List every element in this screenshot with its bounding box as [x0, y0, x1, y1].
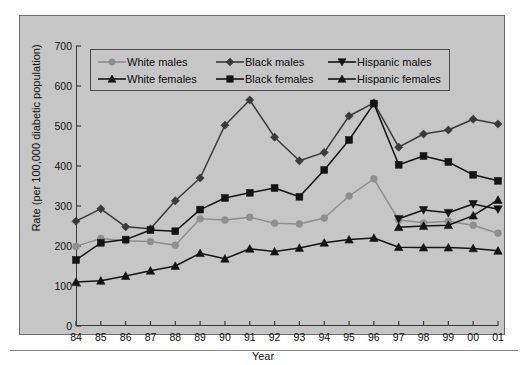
- legend-marker-triangle-down-icon: [327, 55, 357, 69]
- x-tick-label: 86: [113, 331, 139, 343]
- x-tick-label: 91: [237, 331, 263, 343]
- legend-label: Black females: [245, 73, 315, 85]
- chart-legend: White malesBlack malesHispanic males Whi…: [90, 49, 450, 91]
- x-tick-label: 01: [485, 331, 511, 343]
- x-tick-label: 93: [286, 331, 312, 343]
- legend-marker-circle-icon: [97, 55, 127, 69]
- x-tick-label: 89: [187, 331, 213, 343]
- legend-label: Hispanic males: [357, 56, 434, 68]
- legend-entry[interactable]: Black females: [215, 70, 327, 87]
- legend-entry[interactable]: White males: [97, 53, 215, 70]
- series-white-males: [73, 175, 502, 249]
- legend-marker-square-icon: [215, 72, 245, 86]
- legend-marker-triangle-up-icon: [97, 72, 127, 86]
- page-separator-rule: [10, 350, 518, 351]
- figure-panel: 7006005004003002001000 Rate (per 100,000…: [19, 15, 505, 335]
- legend-marker-diamond-icon: [215, 55, 245, 69]
- x-axis-title: Year: [20, 350, 506, 362]
- x-tick-label: 92: [262, 331, 288, 343]
- x-tick-label: 88: [162, 331, 188, 343]
- x-tick-label: 97: [386, 331, 412, 343]
- data-series-layer: [72, 96, 502, 286]
- legend-row: White malesBlack malesHispanic males: [97, 53, 443, 70]
- x-tick-label: 90: [212, 331, 238, 343]
- legend-entry[interactable]: White females: [97, 70, 215, 87]
- x-tick-label: 95: [336, 331, 362, 343]
- legend-entry[interactable]: Hispanic females: [327, 70, 443, 87]
- x-tick-label: 85: [88, 331, 114, 343]
- x-tick-label: 99: [435, 331, 461, 343]
- x-tick-label: 94: [311, 331, 337, 343]
- legend-label: White males: [127, 56, 190, 68]
- legend-label: White females: [127, 73, 199, 85]
- x-tick-label: 84: [63, 331, 89, 343]
- series-black-males: [72, 96, 502, 233]
- series-black-females: [73, 100, 502, 263]
- x-tick-label: 00: [460, 331, 486, 343]
- legend-entry[interactable]: Hispanic males: [327, 53, 434, 70]
- legend-label: Hispanic females: [357, 73, 443, 85]
- legend-label: Black males: [245, 56, 306, 68]
- legend-entry[interactable]: Black males: [215, 53, 327, 70]
- legend-row: White femalesBlack femalesHispanic femal…: [97, 70, 443, 87]
- legend-marker-triangle-up-icon: [327, 72, 357, 86]
- x-tick-label: 87: [137, 331, 163, 343]
- x-tick-label: 96: [361, 331, 387, 343]
- x-tick-label: 98: [411, 331, 437, 343]
